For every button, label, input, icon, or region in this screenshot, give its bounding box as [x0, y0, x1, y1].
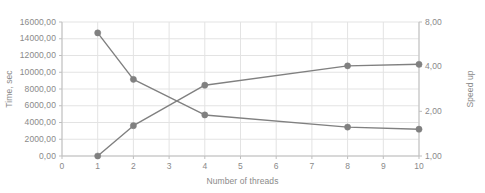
- y-left-tick-label: 6000,00: [4, 100, 56, 110]
- x-tick-label: 8: [338, 161, 358, 171]
- y-left-tick-label: 10000,00: [4, 67, 56, 77]
- y-left-tick-label: 12000,00: [4, 50, 56, 60]
- x-tick-label: 1: [88, 161, 108, 171]
- y-left-tick-label: 14000,00: [4, 33, 56, 43]
- series-line-1: [98, 64, 419, 156]
- y-right-tick-label: 4,00: [425, 61, 465, 71]
- x-axis-title: Number of threads: [0, 176, 485, 186]
- data-point: [345, 124, 351, 130]
- y-left-tick-label: 2000,00: [4, 134, 56, 144]
- y-axis-right-title: Speed up: [465, 59, 475, 119]
- gridlines: [62, 22, 419, 156]
- x-tick-label: 0: [52, 161, 72, 171]
- y-right-tick-label: 1,00: [425, 151, 465, 161]
- x-tick-label: 9: [373, 161, 393, 171]
- data-point: [416, 126, 422, 132]
- data-point: [95, 30, 101, 36]
- y-left-tick-label: 0,00: [4, 151, 56, 161]
- x-tick-label: 5: [231, 161, 251, 171]
- data-point: [416, 61, 422, 67]
- x-tick-label: 4: [195, 161, 215, 171]
- x-tick-label: 2: [123, 161, 143, 171]
- data-point: [202, 82, 208, 88]
- y-right-tick-label: 2,00: [425, 106, 465, 116]
- x-tick-label: 10: [409, 161, 429, 171]
- data-point: [345, 63, 351, 69]
- y-left-tick-label: 8000,00: [4, 84, 56, 94]
- data-point: [130, 123, 136, 129]
- data-point: [202, 112, 208, 118]
- x-tick-label: 3: [159, 161, 179, 171]
- y-right-tick-label: 8,00: [425, 17, 465, 27]
- x-tick-label: 7: [302, 161, 322, 171]
- series-line-0: [98, 33, 419, 129]
- data-point: [130, 76, 136, 82]
- y-left-tick-label: 16000,00: [4, 17, 56, 27]
- y-left-tick-label: 4000,00: [4, 117, 56, 127]
- x-tick-label: 6: [266, 161, 286, 171]
- speedup-chart: Time, sec Speed up Number of threads 0,0…: [0, 0, 485, 193]
- data-point: [95, 153, 101, 159]
